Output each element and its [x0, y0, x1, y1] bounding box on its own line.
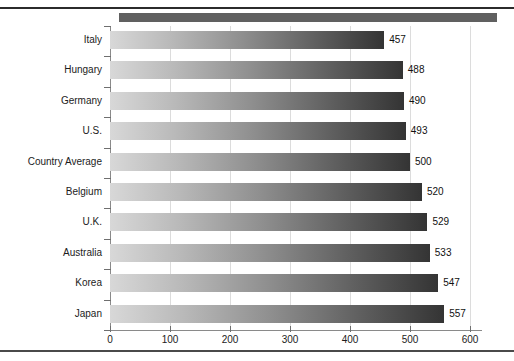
- bar-country-average: [110, 153, 410, 171]
- gridline-x-600: [470, 26, 471, 330]
- x-tick-label-100: 100: [150, 334, 190, 346]
- x-tick-400: [350, 326, 351, 332]
- x-tick-200: [230, 326, 231, 332]
- bar-u-s: [110, 122, 406, 140]
- bar-japan: [110, 305, 444, 323]
- bar-value-label-0: 457: [389, 34, 406, 46]
- x-tick-0: [110, 326, 111, 332]
- category-label-japan: Japan: [2, 308, 102, 320]
- category-label-germany: Germany: [2, 95, 102, 107]
- x-tick-label-300: 300: [270, 334, 310, 346]
- y-tick-6: [104, 208, 111, 209]
- category-label-country-average: Country Average: [2, 156, 102, 168]
- x-tick-100: [170, 326, 171, 332]
- bar-hungary: [110, 61, 403, 79]
- bar-value-label-9: 557: [449, 308, 466, 320]
- bar-australia: [110, 244, 430, 262]
- x-tick-label-0: 0: [90, 334, 130, 346]
- category-label-australia: Australia: [2, 247, 102, 259]
- y-tick-3: [104, 117, 111, 118]
- x-tick-label-200: 200: [210, 334, 250, 346]
- bar-value-label-1: 488: [408, 64, 425, 76]
- y-tick-7: [104, 239, 111, 240]
- bar-italy: [110, 31, 384, 49]
- y-tick-9: [104, 300, 111, 301]
- category-label-korea: Korea: [2, 277, 102, 289]
- y-tick-0: [104, 26, 111, 27]
- bar-value-label-8: 547: [443, 277, 460, 289]
- y-tick-8: [104, 269, 111, 270]
- y-tick-1: [104, 56, 111, 57]
- bar-belgium: [110, 183, 422, 201]
- bar-value-label-5: 520: [427, 186, 444, 198]
- bar-korea: [110, 274, 438, 292]
- x-tick-label-600: 600: [450, 334, 490, 346]
- y-tick-4: [104, 148, 111, 149]
- bar-u-k: [110, 213, 427, 231]
- x-tick-label-400: 400: [330, 334, 370, 346]
- category-label-belgium: Belgium: [2, 186, 102, 198]
- bar-germany: [110, 92, 404, 110]
- x-tick-label-500: 500: [390, 334, 430, 346]
- bar-chart-figure: 0100200300400500600 45748849049350052052…: [0, 0, 514, 361]
- header-banner-bar: [119, 13, 497, 22]
- category-label-u-k: U.K.: [2, 216, 102, 228]
- category-label-italy: Italy: [2, 34, 102, 46]
- x-tick-300: [290, 326, 291, 332]
- top-divider-rule: [0, 7, 514, 9]
- bar-value-label-2: 490: [409, 95, 426, 107]
- y-tick-10: [104, 330, 111, 331]
- bottom-divider-rule: [0, 350, 514, 352]
- category-label-u-s: U.S.: [2, 125, 102, 137]
- x-axis-line: [110, 330, 482, 331]
- y-tick-2: [104, 87, 111, 88]
- x-tick-600: [470, 326, 471, 332]
- bar-value-label-3: 493: [411, 125, 428, 137]
- bar-value-label-4: 500: [415, 156, 432, 168]
- x-tick-500: [410, 326, 411, 332]
- bar-value-label-6: 529: [432, 216, 449, 228]
- category-label-hungary: Hungary: [2, 64, 102, 76]
- bar-value-label-7: 533: [435, 247, 452, 259]
- y-tick-5: [104, 178, 111, 179]
